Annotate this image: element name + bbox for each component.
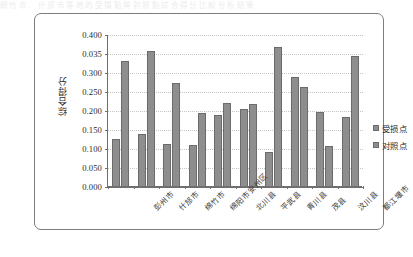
x-category-label: 都江堰市 [380, 182, 411, 213]
bar-damaged [163, 144, 171, 186]
x-category-label: 什邡市 [176, 188, 201, 213]
bar-group [210, 35, 236, 186]
x-tick-mark [287, 186, 288, 189]
x-tick-mark [338, 186, 339, 189]
bar-control [223, 103, 231, 186]
legend-label: 对照点 [382, 139, 407, 151]
bar-control [274, 47, 282, 186]
x-tick-mark [108, 186, 109, 189]
bar-control [351, 56, 359, 186]
bar-control [300, 87, 308, 186]
bar-damaged [265, 152, 273, 186]
x-tick-mark [261, 186, 262, 189]
x-category-label: 平武县 [278, 188, 303, 213]
x-tick-mark [159, 186, 160, 189]
x-tick-mark [236, 186, 237, 189]
y-tick-label: 0.035 [82, 49, 102, 59]
x-category-label: 绵竹市 [202, 188, 227, 213]
bar-control [172, 83, 180, 186]
bar-group [287, 35, 313, 186]
x-category-label: 北川县 [253, 188, 278, 213]
x-category-label: 茂县 [329, 193, 348, 212]
y-tick-label: 0.200 [82, 106, 102, 116]
bar-group [134, 35, 160, 186]
bar-group [312, 35, 338, 186]
bar-control [147, 51, 155, 186]
legend-swatch-icon [373, 125, 379, 131]
y-tick-label: 0.000 [82, 182, 102, 192]
legend-swatch-icon [373, 142, 379, 148]
x-category-label: 青川县 [304, 188, 329, 213]
bar-damaged [214, 115, 222, 186]
y-tick-label: 0.250 [82, 87, 102, 97]
x-tick-mark [312, 186, 313, 189]
bar-group [338, 35, 364, 186]
page-bleed-artifact: 綿 竹 市 、 什 邡 市 等 地 的 受 損 點 與 對 照 點 綜 合 得 … [0, 0, 406, 9]
bar-group [185, 35, 211, 186]
page-bleed-text: 綿 竹 市 、 什 邡 市 等 地 的 受 損 點 與 對 照 點 綜 合 得 … [0, 0, 254, 9]
plot-area [107, 35, 362, 187]
y-tick-label: 0.400 [82, 30, 102, 40]
chart-legend: 受损点对照点 [373, 122, 407, 156]
bar-damaged [291, 77, 299, 186]
figure-frame: 综合得分 0.4000.0350.3000.2500.2000.1500.100… [34, 13, 384, 230]
y-tick-label: 0.050 [82, 163, 102, 173]
y-tick-label: 0.150 [82, 125, 102, 135]
bar-group [108, 35, 134, 186]
bar-damaged [138, 134, 146, 186]
legend-label: 受损点 [382, 122, 407, 134]
legend-item[interactable]: 受损点 [373, 122, 407, 134]
y-tick-label: 0.100 [82, 144, 102, 154]
bar-damaged [342, 117, 350, 186]
y-tick-label: 0.300 [82, 68, 102, 78]
x-category-label: 汶川县 [355, 188, 380, 213]
bar-control [249, 104, 257, 186]
x-tick-mark [210, 186, 211, 189]
x-tick-mark [185, 186, 186, 189]
bar-damaged [112, 139, 120, 187]
bar-damaged [189, 145, 197, 186]
bar-group [159, 35, 185, 186]
legend-item[interactable]: 对照点 [373, 139, 407, 151]
bar-damaged [316, 112, 324, 186]
bar-damaged [240, 109, 248, 186]
bar-group [236, 35, 262, 186]
bar-control [121, 61, 129, 186]
bars-layer [108, 35, 362, 186]
y-axis-tick-labels: 0.4000.0350.3000.2500.2000.1500.1000.050… [35, 14, 107, 166]
bar-control [325, 146, 333, 186]
x-tick-mark [363, 186, 364, 189]
x-tick-mark [134, 186, 135, 189]
x-category-label: 彭州市 [151, 188, 176, 213]
bar-group [261, 35, 287, 186]
bar-control [198, 113, 206, 186]
